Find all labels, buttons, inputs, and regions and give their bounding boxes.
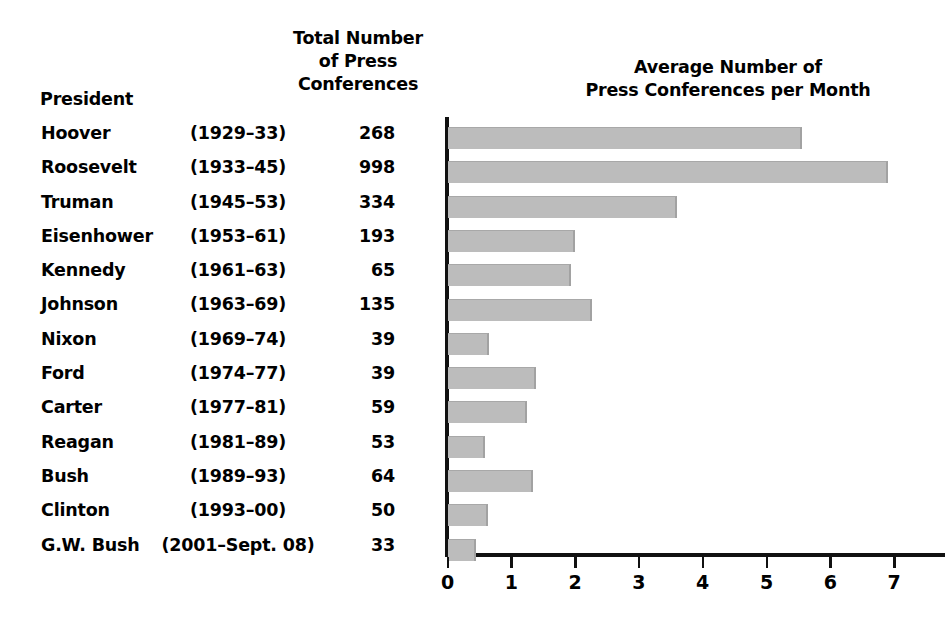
president-column-header: President xyxy=(40,88,133,111)
president-name: Reagan xyxy=(41,425,114,459)
chart-title-line-1: Average Number of xyxy=(508,56,948,79)
table-row: Kennedy(1961–63)65 xyxy=(0,253,400,287)
press-conference-chart-figure: President Total Number of Press Conferen… xyxy=(0,0,949,623)
president-name: Johnson xyxy=(41,287,118,321)
total-conferences-value: 65 xyxy=(300,253,395,287)
bar xyxy=(448,230,576,252)
bar xyxy=(448,367,536,389)
x-axis-tick xyxy=(893,557,896,568)
total-conferences-value: 193 xyxy=(300,219,395,253)
total-conferences-value: 64 xyxy=(300,459,395,493)
x-axis-tick-label: 1 xyxy=(491,571,531,593)
x-axis-tick xyxy=(447,557,450,568)
total-conferences-value: 50 xyxy=(300,493,395,527)
table-row: Reagan(1981–89)53 xyxy=(0,425,400,459)
total-header-line-2: of Press xyxy=(268,50,448,73)
table-row: Johnson(1963–69)135 xyxy=(0,287,400,321)
table-row: G.W. Bush(2001–Sept. 08)33 xyxy=(0,528,400,562)
president-name: Eisenhower xyxy=(41,219,153,253)
table-row: Clinton(1993–00)50 xyxy=(0,493,400,527)
table-row: Ford(1974–77)39 xyxy=(0,356,400,390)
bar xyxy=(448,333,489,355)
total-conferences-value: 39 xyxy=(300,356,395,390)
bar xyxy=(448,436,486,458)
president-name: Kennedy xyxy=(41,253,125,287)
x-axis-tick xyxy=(702,557,705,568)
president-name: Nixon xyxy=(41,322,96,356)
x-axis-tick xyxy=(574,557,577,568)
x-axis-tick-label: 6 xyxy=(810,571,850,593)
president-header-text: President xyxy=(40,89,133,109)
bar xyxy=(448,196,677,218)
president-name: Truman xyxy=(41,185,113,219)
bar xyxy=(448,127,803,149)
total-conferences-value: 53 xyxy=(300,425,395,459)
bar xyxy=(448,504,489,526)
president-name: Ford xyxy=(41,356,85,390)
x-axis-tick-label: 3 xyxy=(619,571,659,593)
bar xyxy=(448,470,533,492)
president-name: G.W. Bush xyxy=(41,528,140,562)
x-axis-tick-label: 4 xyxy=(683,571,723,593)
table-row: Eisenhower(1953–61)193 xyxy=(0,219,400,253)
x-axis-tick xyxy=(766,557,769,568)
y-axis-line xyxy=(445,117,449,557)
table-row: Carter(1977–81)59 xyxy=(0,390,400,424)
table-row: Nixon(1969–74)39 xyxy=(0,322,400,356)
president-name: Carter xyxy=(41,390,102,424)
bar xyxy=(448,264,572,286)
president-name: Bush xyxy=(41,459,89,493)
bar xyxy=(448,299,593,321)
x-axis-tick-label: 5 xyxy=(747,571,787,593)
president-name: Hoover xyxy=(41,116,110,150)
president-name: Roosevelt xyxy=(41,150,137,184)
x-axis-tick-label: 2 xyxy=(555,571,595,593)
president-name: Clinton xyxy=(41,493,110,527)
total-header-line-1: Total Number xyxy=(268,27,448,50)
x-axis-tick-label: 7 xyxy=(874,571,914,593)
total-conferences-value: 59 xyxy=(300,390,395,424)
table-row: Roosevelt(1933–45)998 xyxy=(0,150,400,184)
chart-title: Average Number of Press Conferences per … xyxy=(508,56,948,102)
x-axis-tick xyxy=(829,557,832,568)
chart-title-line-2: Press Conferences per Month xyxy=(508,79,948,102)
table-row: Bush(1989–93)64 xyxy=(0,459,400,493)
total-header-line-3: Conferences xyxy=(268,73,448,96)
x-axis-tick-label: 0 xyxy=(428,571,468,593)
bar xyxy=(448,401,528,423)
bar xyxy=(448,539,477,561)
total-conferences-column-header: Total Number of Press Conferences xyxy=(268,27,448,96)
total-conferences-value: 39 xyxy=(300,322,395,356)
x-axis-tick xyxy=(510,557,513,568)
x-axis-line xyxy=(445,553,945,557)
total-conferences-value: 998 xyxy=(300,150,395,184)
total-conferences-value: 268 xyxy=(300,116,395,150)
president-data-table: Hoover(1929–33)268Roosevelt(1933–45)998T… xyxy=(0,116,400,562)
bar xyxy=(448,161,888,183)
table-row: Truman(1945–53)334 xyxy=(0,185,400,219)
total-conferences-value: 334 xyxy=(300,185,395,219)
total-conferences-value: 33 xyxy=(300,528,395,562)
x-axis-tick xyxy=(638,557,641,568)
total-conferences-value: 135 xyxy=(300,287,395,321)
table-row: Hoover(1929–33)268 xyxy=(0,116,400,150)
